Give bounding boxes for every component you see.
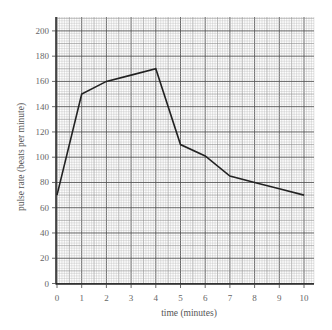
axes	[56, 17, 314, 285]
y-tick-label: 200	[36, 26, 50, 36]
graph-paper-grid	[56, 17, 314, 284]
x-tick-label: 6	[203, 293, 208, 303]
x-tick-label: 0	[55, 293, 60, 303]
y-tick-label: 140	[36, 102, 50, 112]
y-tick-label: 80	[40, 177, 50, 187]
x-tick-label: 2	[104, 293, 109, 303]
x-tick-label: 9	[277, 293, 282, 303]
y-tick-label: 40	[40, 228, 50, 238]
y-axis-label: pulse rate (beats per minute)	[16, 103, 27, 211]
y-axis-ticks: 020406080100120140160180200	[36, 26, 57, 289]
x-axis-label: time (minutes)	[161, 308, 217, 319]
x-tick-label: 8	[252, 293, 257, 303]
y-tick-label: 100	[36, 152, 50, 162]
x-tick-label: 7	[228, 293, 233, 303]
y-tick-label: 0	[45, 279, 50, 289]
y-tick-label: 20	[40, 253, 50, 263]
y-tick-label: 120	[36, 127, 50, 137]
y-tick-label: 160	[36, 76, 50, 86]
x-tick-label: 1	[79, 293, 84, 303]
x-tick-label: 5	[178, 293, 183, 303]
x-tick-label: 10	[300, 293, 310, 303]
x-tick-label: 4	[154, 293, 159, 303]
x-axis-ticks: 012345678910	[55, 284, 309, 303]
y-tick-label: 60	[40, 203, 50, 213]
pulse-rate-chart: 020406080100120140160180200 012345678910…	[0, 0, 332, 330]
y-tick-label: 180	[36, 51, 50, 61]
x-tick-label: 3	[129, 293, 134, 303]
